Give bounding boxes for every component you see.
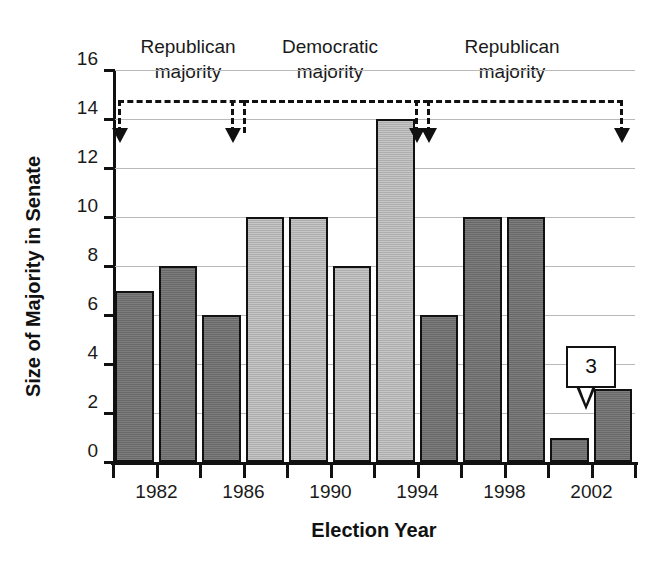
bar [550,438,589,463]
senate-majority-bar-chart: Republican majority Democratic majority … [0,0,664,567]
x-axis-tick-label: 1990 [309,481,351,503]
region-label-line1: Republican [140,34,235,59]
y-axis-label-wrap: 10 [48,217,98,239]
bar [420,315,459,462]
x-axis-tick [460,465,463,478]
region-label-line1: Republican [464,34,559,59]
region-arrow [112,128,128,143]
bar [159,266,198,462]
y-axis-label-wrap: 6 [48,315,98,337]
bar [507,217,546,462]
y-axis-label-wrap: 12 [48,168,98,190]
region-label-line1: Democratic [282,34,378,59]
x-axis-tick-label: 1994 [396,481,438,503]
x-axis-tick-label: 1982 [135,481,177,503]
bar [289,217,328,462]
bar [463,217,502,462]
region-arrow [421,128,437,143]
y-axis-tick-label: 10 [48,195,98,217]
y-axis-tick-label: 2 [48,391,98,413]
x-axis-tick [112,465,115,478]
x-axis-tick-label: 2002 [570,481,612,503]
y-axis-tick-label: 16 [48,48,98,70]
y-axis-tick-label: 8 [48,244,98,266]
y-axis-label-wrap: 0 [48,462,98,484]
bar [202,315,241,462]
region-arrow [614,128,630,143]
y-axis-label-wrap: 16 [48,70,98,92]
x-axis-tick [373,465,376,478]
y-axis-tick-label: 0 [48,440,98,462]
x-axis-tick-label: 1986 [222,481,264,503]
x-axis-tick [199,465,202,478]
x-axis-tick-label: 1998 [483,481,525,503]
region-arrow [225,128,241,143]
x-axis-tick [156,465,159,478]
callout-label: 3 [566,346,616,388]
y-axis-label-wrap: 14 [48,119,98,141]
x-axis-tick [504,465,507,478]
y-axis-tick-label: 6 [48,293,98,315]
y-axis-label-wrap: 4 [48,364,98,386]
x-axis-title: Election Year [113,519,635,542]
x-axis-tick [286,465,289,478]
bars-group [113,70,635,462]
bar [376,119,415,462]
y-axis-tick-label: 12 [48,146,98,168]
bar [333,266,372,462]
callout-value-3: 3 [566,346,612,410]
x-axis-tick [634,465,637,478]
x-axis-tick [591,465,594,478]
y-axis-title: Size of Majority in Senate [22,112,45,442]
y-axis-tick-label: 14 [48,97,98,119]
bar [246,217,285,462]
x-axis-tick [243,465,246,478]
y-axis-label-wrap: 2 [48,413,98,435]
x-axis-tick [330,465,333,478]
y-axis-label-wrap: 8 [48,266,98,288]
x-axis-tick [547,465,550,478]
x-axis-tick [417,465,420,478]
bar [115,291,154,463]
y-axis-tick-label: 4 [48,342,98,364]
